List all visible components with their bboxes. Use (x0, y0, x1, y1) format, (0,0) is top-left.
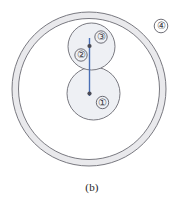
annotation-label-1: ① (96, 96, 108, 108)
annotation-text-2: ② (77, 50, 86, 60)
diagram-canvas: ① ② ③ ④ (0, 0, 184, 205)
annotation-label-2: ② (75, 49, 87, 61)
annotation-text-4: ④ (157, 21, 166, 31)
figure-container: ① ② ③ ④ (b) (0, 0, 184, 205)
figure-caption: (b) (0, 181, 184, 193)
annotation-text-3: ③ (97, 32, 106, 42)
lower-center-dot (87, 91, 91, 95)
annotation-label-4: ④ (154, 19, 168, 33)
annotation-text-1: ① (98, 98, 107, 108)
annotation-label-3: ③ (95, 31, 107, 43)
lower-interior-circle (67, 67, 120, 120)
upper-center-dot (87, 44, 91, 48)
